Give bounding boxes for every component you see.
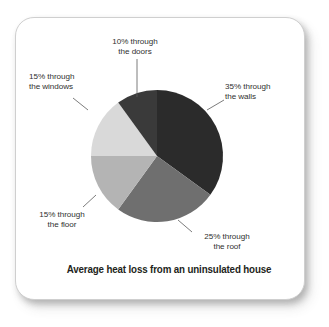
pie-label-walls-line2: the walls: [225, 92, 299, 102]
pie-label-walls: 35% through the walls: [225, 82, 299, 103]
pie-label-doors: 10% through the doors: [104, 37, 166, 58]
pie-label-floor-line2: the floor: [29, 220, 95, 230]
pie-label-windows: 15% through the windows: [29, 72, 101, 93]
pie-slices: [91, 90, 223, 222]
pie-label-doors-line1: 10% through: [112, 37, 157, 46]
pie-label-doors-line2: the doors: [104, 47, 166, 57]
leader-line-floor: [83, 195, 96, 207]
pie-label-roof-line1: 25% through: [204, 232, 249, 241]
pie-label-roof-line2: the roof: [192, 242, 262, 252]
pie-label-windows-line1: 15% through: [29, 72, 74, 81]
pie-chart: 10% through the doors 35% through the wa…: [0, 0, 329, 327]
pie-label-roof: 25% through the roof: [192, 232, 262, 253]
chart-caption: Average heat loss from an uninsulated ho…: [52, 264, 287, 275]
pie-label-floor: 15% through the floor: [29, 210, 95, 231]
leader-line-walls: [207, 100, 224, 110]
pie-label-windows-line2: the windows: [29, 82, 101, 92]
leader-line-roof: [178, 220, 192, 232]
pie-label-walls-line1: 35% through: [225, 82, 270, 91]
leader-line-windows: [73, 98, 88, 110]
pie-label-floor-line1: 15% through: [39, 210, 84, 219]
